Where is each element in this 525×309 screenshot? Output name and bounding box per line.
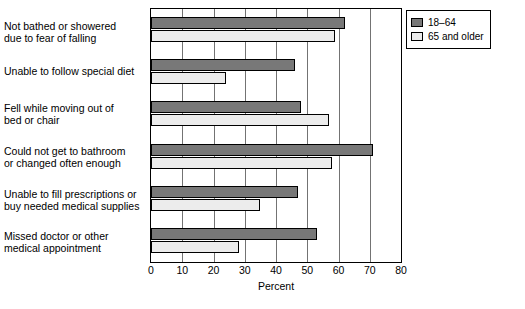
- x-tick-label: 40: [270, 264, 282, 276]
- category-label-1-line1: Unable to follow special diet: [4, 65, 150, 77]
- bar: [151, 241, 239, 253]
- category-label-3: Could not get to bathroom or changed oft…: [4, 145, 150, 169]
- category-label-0-line2: due to fear of falling: [4, 32, 150, 44]
- category-label-2-line1: Fell while moving out of: [4, 102, 150, 114]
- legend-swatch-icon-0: [411, 18, 423, 27]
- bar: [151, 199, 260, 211]
- bar: [151, 157, 332, 169]
- x-tick-label: 30: [239, 264, 251, 276]
- category-axis-labels: Not bathed or showered due to fear of fa…: [4, 8, 150, 263]
- category-label-4-line1: Unable to fill prescriptions or: [4, 188, 150, 200]
- legend-item-1: 65 and older: [411, 30, 484, 43]
- chart-figure: Not bathed or showered due to fear of fa…: [0, 0, 525, 309]
- x-tick-label: 50: [301, 264, 313, 276]
- bar: [151, 59, 295, 71]
- bar: [151, 186, 298, 198]
- x-tick-label: 80: [395, 264, 407, 276]
- legend-label-1: 65 and older: [428, 30, 484, 43]
- x-tick-label: 70: [364, 264, 376, 276]
- category-label-5: Missed doctor or other medical appointme…: [4, 230, 150, 254]
- category-label-3-line2: or changed often enough: [4, 157, 150, 169]
- x-tick-label: 10: [176, 264, 188, 276]
- bar: [151, 144, 373, 156]
- category-label-0: Not bathed or showered due to fear of fa…: [4, 20, 150, 44]
- legend: 18–64 65 and older: [406, 10, 491, 49]
- bar: [151, 72, 226, 84]
- category-label-4-line2: buy needed medical supplies: [4, 200, 150, 212]
- legend-item-0: 18–64: [411, 16, 484, 29]
- legend-label-0: 18–64: [428, 16, 456, 29]
- bar: [151, 228, 317, 240]
- x-axis-label: Percent: [150, 280, 402, 292]
- x-tick-label: 20: [208, 264, 220, 276]
- legend-swatch-icon-1: [411, 32, 423, 41]
- category-label-0-line1: Not bathed or showered: [4, 20, 150, 32]
- category-label-1: Unable to follow special diet: [4, 65, 150, 77]
- x-tick-label: 0: [148, 264, 154, 276]
- bar: [151, 30, 335, 42]
- bar: [151, 114, 329, 126]
- category-label-5-line1: Missed doctor or other: [4, 230, 150, 242]
- category-label-3-line1: Could not get to bathroom: [4, 145, 150, 157]
- x-axis-ticks: 01020304050607080: [150, 264, 402, 278]
- category-label-2-line2: bed or chair: [4, 114, 150, 126]
- bars-layer: [151, 9, 401, 262]
- category-label-5-line2: medical appointment: [4, 242, 150, 254]
- category-label-4: Unable to fill prescriptions or buy need…: [4, 188, 150, 212]
- bar: [151, 17, 345, 29]
- bar: [151, 101, 301, 113]
- x-tick-label: 60: [333, 264, 345, 276]
- category-label-2: Fell while moving out of bed or chair: [4, 102, 150, 126]
